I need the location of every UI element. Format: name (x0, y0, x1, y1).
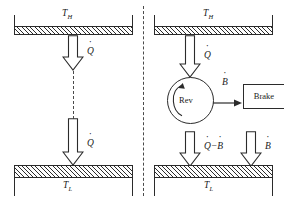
temp-subscript: L (209, 185, 213, 192)
cold-reservoir-label-right: TL (204, 180, 213, 192)
work-transfer-arrow (213, 95, 243, 113)
hot-reservoir-label-left: TH (62, 8, 72, 20)
reservoir-wall-right (272, 177, 273, 196)
brake-heat-arrow-into-cold (240, 131, 262, 167)
brake-label: Brake (244, 91, 284, 101)
reservoir-hatch-band (154, 165, 273, 178)
net-heat-label-into-cold: Q−B (204, 141, 223, 151)
heat-flow-connector-left (73, 71, 74, 119)
temp-subscript: H (67, 13, 72, 20)
work-label-to-brake: B (222, 77, 228, 87)
heat-arrow-into-cold-left (62, 118, 84, 166)
heat-label-from-hot-right: Q (204, 50, 211, 60)
panel-left: TH Q Q TL (0, 0, 143, 202)
reservoir-hatch-band (154, 26, 273, 35)
qdot-symbol: Q (87, 46, 94, 56)
temp-subscript: L (68, 185, 72, 192)
thermodynamics-figure: TH Q Q TL (0, 0, 284, 202)
reservoir-wall-right (132, 177, 133, 196)
qdot-symbol: Q (87, 138, 94, 148)
temp-subscript: H (208, 13, 213, 20)
net-heat-arrow-into-cold (179, 131, 201, 167)
heat-arrow-from-hot-left (62, 35, 84, 71)
bdot-symbol: B (217, 141, 223, 151)
qdot-symbol: Q (204, 50, 211, 60)
cold-reservoir-label-left: TL (63, 180, 72, 192)
brake-heat-label-into-cold: B (265, 141, 271, 151)
bdot-symbol: B (222, 77, 228, 87)
reservoir-wall-left (14, 177, 15, 196)
reservoir-hatch-band (14, 26, 133, 35)
bdot-symbol: B (265, 141, 271, 151)
panel-right: TH Q Rev B (143, 0, 284, 202)
reservoir-hatch-band (14, 165, 133, 178)
heat-label-into-cold-left: Q (87, 138, 94, 148)
hot-reservoir-label-right: TH (203, 8, 213, 20)
brake-box[interactable]: Brake (243, 84, 284, 109)
reservoir-wall-left (154, 177, 155, 196)
heat-label-from-hot-left: Q (87, 46, 94, 56)
qdot-symbol: Q (204, 141, 211, 151)
reversible-engine-label: Rev (179, 95, 193, 105)
heat-arrow-from-hot-right (179, 35, 201, 78)
